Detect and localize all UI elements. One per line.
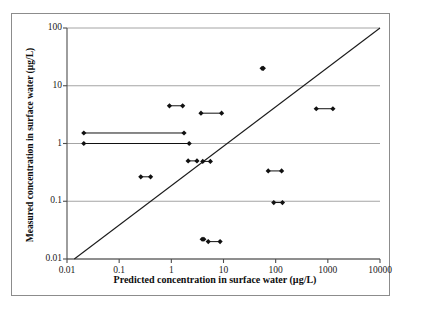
data-point-marker xyxy=(81,130,86,135)
data-point-marker xyxy=(138,174,143,179)
data-point-marker xyxy=(180,103,185,108)
data-point-marker xyxy=(167,103,172,108)
data-point-marker xyxy=(81,141,86,146)
data-point-marker xyxy=(330,106,335,111)
data-point-marker xyxy=(206,239,211,244)
data-point-marker xyxy=(314,106,319,111)
data-point-marker xyxy=(279,168,284,173)
data-point-marker xyxy=(198,111,203,116)
data-point-marker xyxy=(271,200,276,205)
data-point-marker xyxy=(186,158,191,163)
data-point-marker xyxy=(217,239,222,244)
figure-container: 1001010.10.010.010.1110100100010000 Meas… xyxy=(0,0,428,318)
data-point-marker xyxy=(194,158,199,163)
data-point-marker xyxy=(148,174,153,179)
data-point-marker xyxy=(266,168,271,173)
data-point-marker xyxy=(181,130,186,135)
data-series-group xyxy=(81,66,335,244)
data-point-marker xyxy=(187,141,192,146)
data-point-marker xyxy=(208,159,213,164)
y-tick-label: 0.01 xyxy=(21,253,62,263)
data-point-marker xyxy=(219,111,224,116)
x-axis-title: Predicted concentration in surface water… xyxy=(50,274,380,285)
y-tick-label: 100 xyxy=(21,22,62,32)
data-point-marker xyxy=(280,200,285,205)
y-axis-title: Measured concentration in surface water … xyxy=(25,40,35,250)
